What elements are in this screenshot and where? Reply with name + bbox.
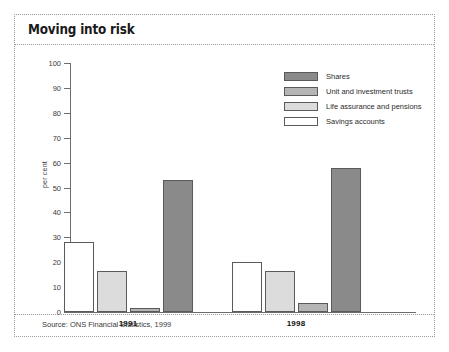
chart-card: Moving into risk per cent 01020304050607… bbox=[14, 14, 435, 337]
page-title: Moving into risk bbox=[28, 21, 134, 37]
bar bbox=[265, 271, 295, 312]
y-axis-tick-label: 40 bbox=[35, 209, 61, 217]
y-axis-tick bbox=[64, 312, 70, 313]
y-axis-tick-label: 50 bbox=[35, 185, 61, 193]
legend-item-label: Savings accounts bbox=[326, 116, 385, 127]
legend-item-label: Life assurance and pensions bbox=[326, 101, 421, 112]
legend-item: Shares bbox=[284, 71, 434, 86]
legend-swatch bbox=[284, 72, 318, 81]
bar bbox=[298, 303, 328, 312]
legend-item: Unit and investment trusts bbox=[284, 86, 434, 101]
legend-swatch bbox=[284, 102, 318, 111]
y-axis-tick-label: 30 bbox=[35, 234, 61, 242]
bar bbox=[97, 271, 127, 312]
bar bbox=[64, 242, 94, 312]
x-axis-line bbox=[70, 312, 416, 313]
legend-swatch bbox=[284, 87, 318, 96]
legend-swatch bbox=[284, 117, 318, 126]
source-note: Source: ONS Financial Statistics, 1999 bbox=[42, 320, 171, 329]
bar bbox=[232, 262, 262, 312]
bar-group bbox=[64, 63, 193, 312]
source-bar: Source: ONS Financial Statistics, 1999 bbox=[15, 314, 434, 336]
legend-item: Savings accounts bbox=[284, 116, 434, 131]
y-axis-tick-label: 80 bbox=[35, 110, 61, 118]
legend-item-label: Unit and investment trusts bbox=[326, 86, 413, 97]
chart-title-bar: Moving into risk bbox=[15, 15, 434, 45]
bar bbox=[130, 308, 160, 312]
bar bbox=[163, 180, 193, 312]
y-axis-tick-label: 20 bbox=[35, 259, 61, 267]
bar bbox=[331, 168, 361, 312]
y-axis-tick-label: 70 bbox=[35, 135, 61, 143]
y-axis-tick-label: 100 bbox=[35, 60, 61, 68]
y-axis-tick-label: 90 bbox=[35, 85, 61, 93]
chart-legend: SharesUnit and investment trustsLife ass… bbox=[284, 71, 434, 131]
legend-item-label: Shares bbox=[326, 71, 350, 82]
y-axis-tick-label: 60 bbox=[35, 160, 61, 168]
y-axis-tick-label: 10 bbox=[35, 284, 61, 292]
plot-area: per cent 0102030405060708090100 19911998… bbox=[15, 45, 434, 316]
legend-item: Life assurance and pensions bbox=[284, 101, 434, 116]
